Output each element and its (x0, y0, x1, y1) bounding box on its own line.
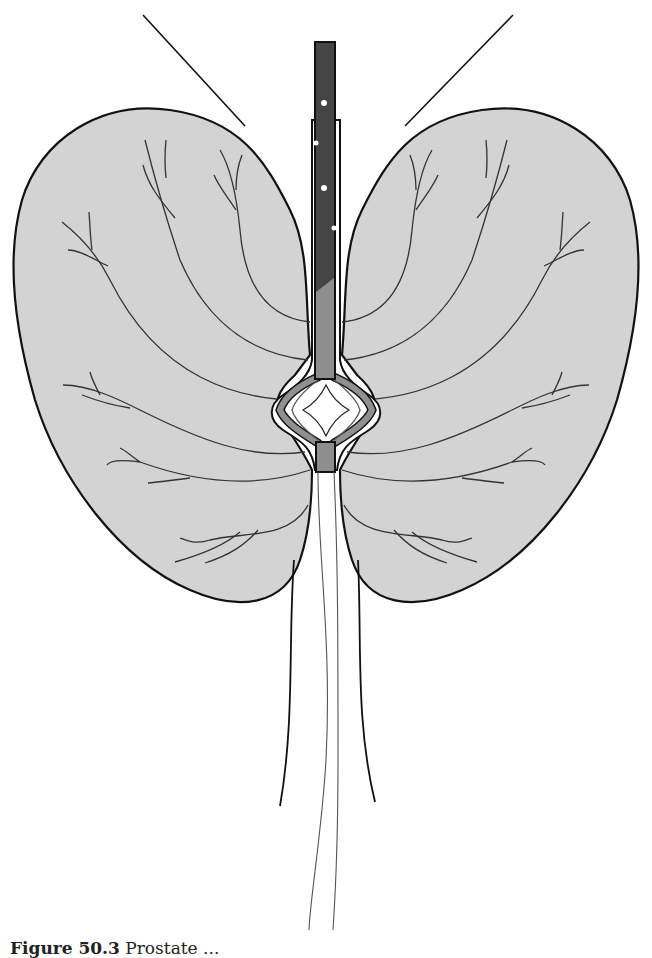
caption-text: Prostate ... (125, 938, 219, 958)
figure-caption: Figure 50.3 Prostate ... (10, 938, 219, 958)
right-lobe (340, 108, 639, 602)
inner-strands (309, 472, 338, 930)
lower-segment (316, 442, 335, 472)
caption-label: Figure 50.3 (10, 938, 120, 958)
catheter-dark-section (316, 43, 334, 292)
left-lobe (13, 108, 312, 602)
